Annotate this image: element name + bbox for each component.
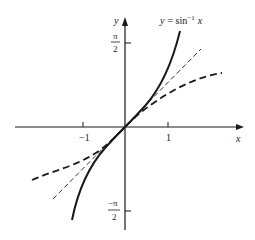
x-tick-label-1: 1 — [166, 132, 171, 143]
x-axis-label: x — [235, 133, 241, 144]
arcsin-curve — [72, 31, 180, 220]
y-tick-label-pi-den: 2 — [113, 44, 118, 54]
arcsin-diagram: −1 1 x y π 2 −π 2 y= sin−1x — [0, 0, 255, 240]
y-tick-label-pi-num: π — [113, 31, 118, 41]
y-axis-arrow-icon — [122, 17, 128, 26]
x-axis-arrow-icon — [236, 124, 244, 130]
y-tick-label-negpi-num: −π — [108, 198, 118, 208]
y-tick-label-negpi-den: 2 — [112, 212, 117, 222]
y-axis-label: y — [113, 15, 119, 26]
curve-label: y= sin−1x — [159, 14, 203, 26]
x-tick-label-neg1: −1 — [79, 132, 90, 143]
